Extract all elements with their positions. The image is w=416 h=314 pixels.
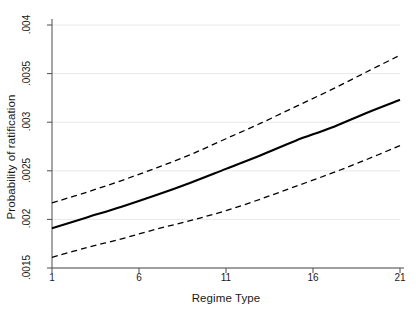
data-series (52, 55, 400, 257)
x-axis-ticks (52, 268, 400, 273)
regime-type-ratification-chart: Probability of ratification Regime Type … (0, 0, 416, 314)
series-line-1 (52, 55, 400, 203)
plot-canvas (0, 0, 416, 314)
series-line-2 (52, 146, 400, 258)
y-axis-ticks (47, 25, 52, 268)
axis-lines (52, 19, 404, 268)
gridlines (52, 25, 400, 268)
series-line-0 (52, 100, 400, 228)
